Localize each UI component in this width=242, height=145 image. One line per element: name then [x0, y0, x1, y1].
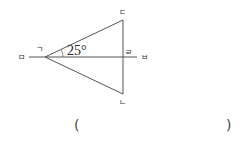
answer-open-paren: (: [74, 117, 79, 133]
label-giyeok: ㄱ: [36, 45, 43, 54]
answer-close-paren: ): [226, 117, 231, 133]
angle-label: 25°: [67, 43, 87, 58]
label-mieum: ㅁ: [18, 53, 25, 62]
label-bieup: ㅂ: [141, 53, 148, 62]
label-digeut: ㄷ: [119, 8, 126, 17]
angle-arc: [61, 49, 63, 57]
segment-giyeok-nieun: [45, 57, 123, 94]
answer-blank[interactable]: [86, 117, 224, 137]
label-rieul: ㄹ: [125, 48, 132, 57]
label-nieun: ㄴ: [119, 98, 126, 107]
